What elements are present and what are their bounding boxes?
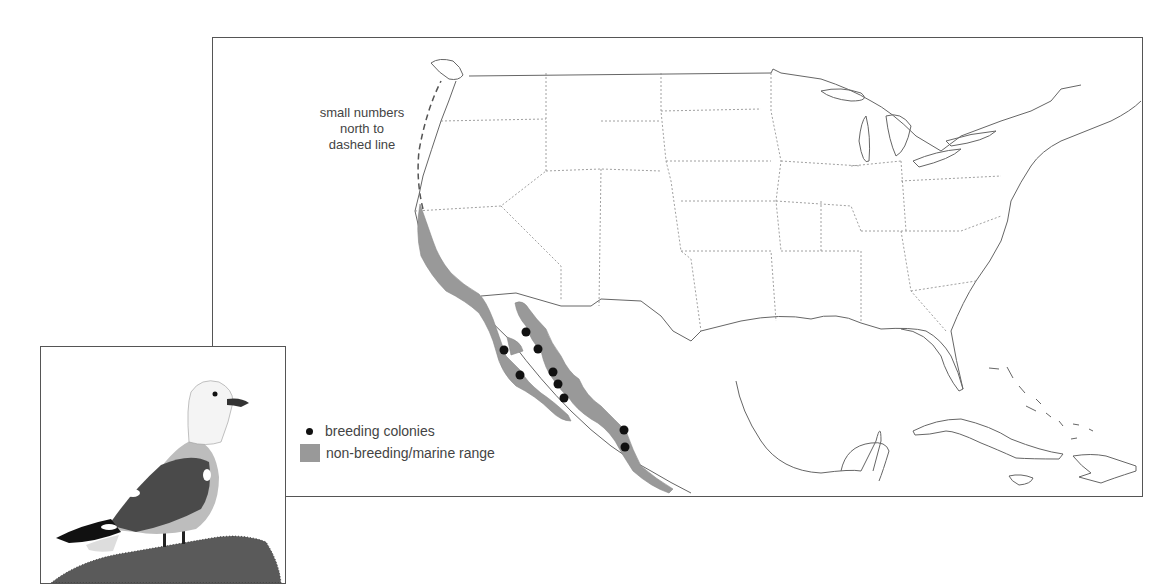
- annotation-line-2: north to: [302, 121, 422, 137]
- gull-illustration: [41, 347, 286, 584]
- coastlines: [415, 59, 1141, 493]
- map-legend: breeding colonies non-breeding/marine ra…: [300, 420, 495, 464]
- range-annotation: small numbers north to dashed line: [302, 105, 422, 153]
- annotation-line-3: dashed line: [302, 137, 422, 153]
- annotation-line-1: small numbers: [302, 105, 422, 121]
- breeding-colony-dot-icon: [306, 428, 313, 435]
- legend-item-marine-range: non-breeding/marine range: [300, 442, 495, 464]
- marine-range-swatch-icon: [300, 444, 320, 462]
- legend-label-breeding-colonies: breeding colonies: [325, 423, 435, 439]
- bird-illustration-inset: [40, 346, 286, 584]
- legend-label-marine-range: non-breeding/marine range: [326, 445, 495, 461]
- state-borders: [415, 73, 1001, 331]
- legend-item-breeding-colonies: breeding colonies: [300, 420, 495, 442]
